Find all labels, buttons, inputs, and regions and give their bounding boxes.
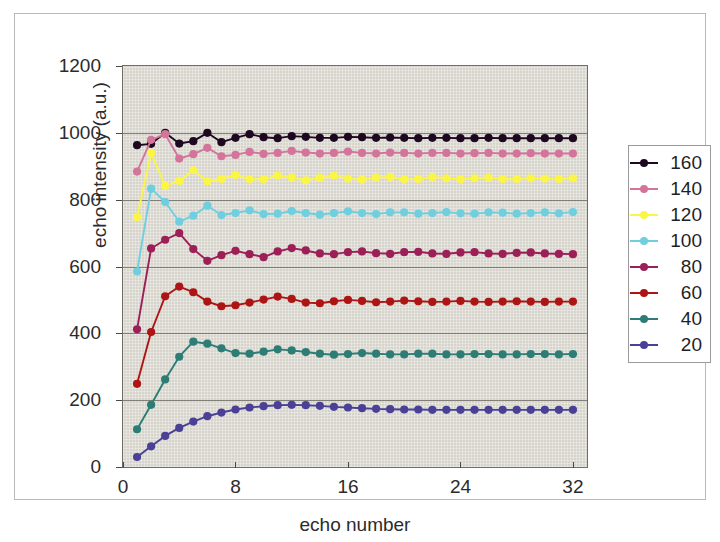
data-point — [330, 134, 338, 142]
data-point — [456, 134, 464, 142]
data-point — [442, 174, 450, 182]
data-point — [147, 185, 155, 193]
legend-dot — [640, 237, 648, 245]
data-point — [316, 149, 324, 157]
data-point — [372, 134, 380, 142]
legend-item-60[interactable]: 60 — [629, 280, 708, 306]
data-point — [217, 138, 225, 146]
legend-item-80[interactable]: 80 — [629, 254, 708, 280]
x-tick-mark — [460, 462, 461, 468]
data-point — [302, 401, 310, 409]
data-point — [217, 152, 225, 160]
data-point — [147, 401, 155, 409]
x-tick-label: 16 — [337, 476, 358, 498]
data-point — [513, 297, 521, 305]
data-point — [400, 149, 408, 157]
data-point — [344, 175, 352, 183]
data-point — [386, 250, 394, 258]
data-point — [470, 297, 478, 305]
legend-item-100[interactable]: 100 — [629, 228, 708, 254]
series-line — [137, 233, 573, 329]
x-tick-label: 24 — [450, 476, 471, 498]
data-point — [175, 424, 183, 432]
data-point — [358, 404, 366, 412]
data-point — [569, 297, 577, 305]
series-160 — [133, 129, 577, 150]
data-point — [428, 173, 436, 181]
data-point — [189, 417, 197, 425]
legend-item-40[interactable]: 40 — [629, 306, 708, 332]
series-line — [137, 342, 573, 430]
data-point — [316, 402, 324, 410]
data-point — [442, 208, 450, 216]
data-point — [133, 267, 141, 275]
data-point — [245, 403, 253, 411]
legend-label: 100 — [659, 230, 708, 252]
legend-dot — [640, 263, 648, 271]
data-point — [484, 208, 492, 216]
data-point — [260, 210, 268, 218]
data-point — [133, 453, 141, 461]
data-point — [555, 350, 563, 358]
data-point — [147, 136, 155, 144]
data-point — [442, 134, 450, 142]
data-point — [260, 295, 268, 303]
data-point — [133, 213, 141, 221]
series-20 — [133, 401, 577, 461]
data-point — [386, 350, 394, 358]
data-point — [386, 148, 394, 156]
data-point — [231, 301, 239, 309]
data-point — [513, 175, 521, 183]
data-point — [555, 406, 563, 414]
data-point — [260, 348, 268, 356]
data-point — [372, 174, 380, 182]
data-point — [428, 134, 436, 142]
y-tick-label: 1000 — [15, 122, 101, 144]
data-point — [456, 149, 464, 157]
data-point — [330, 351, 338, 359]
y-tick-label: 800 — [15, 189, 101, 211]
data-point — [245, 350, 253, 358]
data-point — [386, 405, 394, 413]
data-point — [541, 149, 549, 157]
data-point — [203, 412, 211, 420]
data-point — [175, 218, 183, 226]
x-tick-label: 32 — [562, 476, 583, 498]
series-80 — [133, 229, 577, 333]
data-point — [414, 210, 422, 218]
legend-item-140[interactable]: 140 — [629, 176, 708, 202]
legend-item-160[interactable]: 160 — [629, 150, 708, 176]
data-point — [245, 298, 253, 306]
data-point — [189, 150, 197, 158]
data-point — [189, 212, 197, 220]
legend-item-20[interactable]: 20 — [629, 332, 708, 358]
y-tick-label: 1200 — [15, 55, 101, 77]
data-point — [316, 249, 324, 257]
data-point — [344, 207, 352, 215]
y-tick-label: 600 — [15, 256, 101, 278]
legend-item-120[interactable]: 120 — [629, 202, 708, 228]
data-point — [189, 288, 197, 296]
data-point — [260, 150, 268, 158]
data-point — [288, 346, 296, 354]
data-point — [344, 350, 352, 358]
data-point — [513, 134, 521, 142]
data-point — [316, 350, 324, 358]
data-point — [231, 405, 239, 413]
figure-page: echo intensity (a.u.) 020040060080010001… — [0, 0, 720, 542]
data-point — [456, 406, 464, 414]
data-point — [133, 167, 141, 175]
legend-label: 80 — [659, 256, 708, 278]
data-point — [541, 298, 549, 306]
data-point — [288, 174, 296, 182]
data-point — [175, 154, 183, 162]
data-point — [189, 166, 197, 174]
data-point — [372, 249, 380, 257]
data-point — [442, 250, 450, 258]
series-line — [137, 189, 573, 272]
data-point — [302, 209, 310, 217]
data-point — [189, 137, 197, 145]
data-point — [175, 229, 183, 237]
legend-marker-icon — [629, 312, 659, 326]
data-point — [414, 134, 422, 142]
